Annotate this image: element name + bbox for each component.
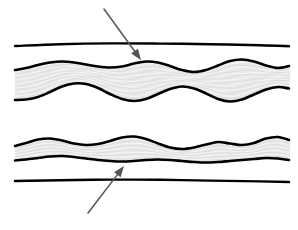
cross-section-diagram xyxy=(0,0,298,230)
upper-folded-layer xyxy=(15,59,290,101)
lower-datum-line xyxy=(15,180,289,182)
lower-arrow xyxy=(88,166,124,213)
upper-arrow-shaft xyxy=(104,9,136,54)
upper-panel xyxy=(15,9,290,102)
lower-panel xyxy=(15,136,290,213)
lower-folded-layer xyxy=(15,136,290,162)
lower-arrow-shaft xyxy=(88,172,119,213)
upper-datum-line xyxy=(15,43,289,46)
lower-arrow-head-icon xyxy=(114,166,124,177)
upper-arrow xyxy=(104,9,141,60)
figure-root xyxy=(0,0,298,230)
upper-arrow-head-icon xyxy=(131,49,141,60)
